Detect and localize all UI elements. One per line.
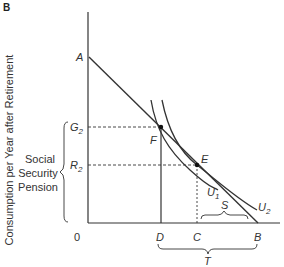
label-u1: U1 [207,186,219,201]
pension-brace [60,122,68,222]
label-d: D [156,231,164,243]
side-label-line1: Social [25,153,55,165]
label-r2: R2 [70,159,83,174]
label-t: T [204,255,212,267]
origin-label: 0 [74,231,80,243]
label-f: F [150,134,158,146]
label-s: S [221,199,229,211]
side-label-line3: Pension [18,181,58,193]
s-brace [201,211,248,219]
y-axis-label: Consumption per Year after Retirement [3,55,15,246]
label-b: B [254,231,261,243]
side-label-line2: Security [18,167,58,179]
label-c: C [193,231,201,243]
label-g2: G2 [70,121,84,136]
budget-line [89,57,258,223]
retirement-diagram: B Consumption per Year after Retirement … [0,0,284,267]
label-u2: U2 [258,201,271,216]
label-a: A [75,51,83,63]
label-e: E [201,153,209,165]
point-f [159,125,163,129]
t-brace [158,244,257,254]
point-e [195,163,199,167]
panel-label: B [3,2,10,13]
